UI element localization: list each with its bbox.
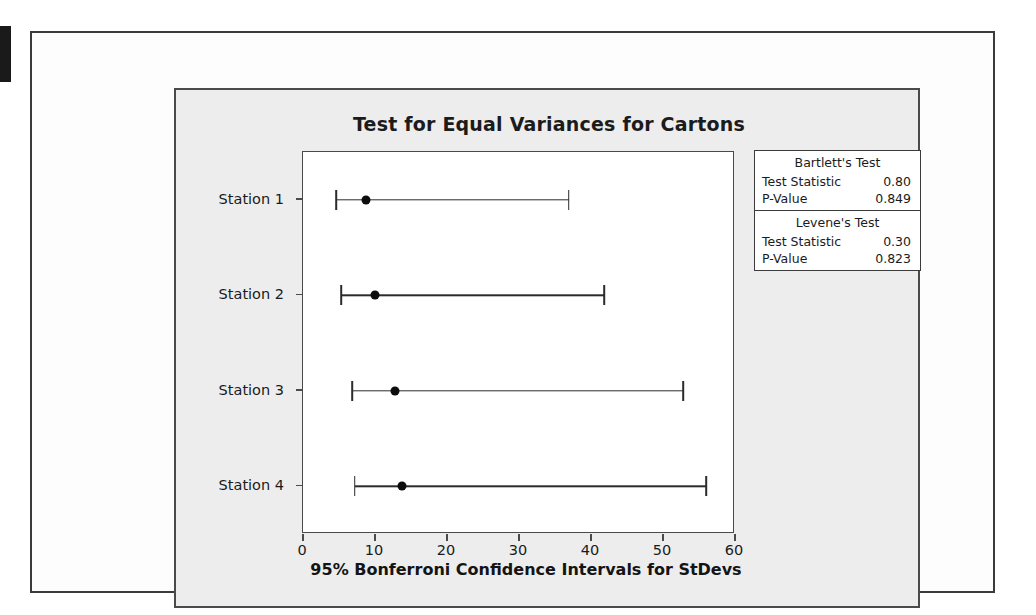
- x-tick-label-50: 50: [653, 542, 671, 558]
- x-tick-mark-50: [662, 534, 664, 541]
- x-tick-label-20: 20: [437, 542, 455, 558]
- y-tick-mark-1: [296, 198, 302, 200]
- interval-center-point: [361, 195, 370, 204]
- interval-lower-cap: [335, 190, 337, 210]
- interval-row: [303, 475, 733, 497]
- bartlett-test-statistic-value: 0.80: [883, 174, 911, 189]
- x-tick-mark-0: [302, 534, 304, 541]
- x-tick-mark-40: [590, 534, 592, 541]
- levene-pvalue-row: P-Value 0.823: [755, 250, 920, 270]
- statistics-panel: Bartlett's Test Test Statistic 0.80 P-Va…: [754, 150, 921, 271]
- x-tick-label-30: 30: [509, 542, 527, 558]
- interval-line: [336, 199, 569, 200]
- bartlett-pvalue-value: 0.849: [875, 191, 911, 206]
- bartlett-test-statistic-row: Test Statistic 0.80: [755, 173, 920, 190]
- y-tick-label-3: Station 3: [219, 382, 284, 398]
- interval-lower-cap: [340, 285, 342, 305]
- interval-lower-cap: [354, 476, 356, 496]
- interval-upper-cap: [682, 381, 684, 401]
- interval-center-point: [371, 291, 380, 300]
- interval-line: [341, 295, 604, 296]
- x-tick-mark-10: [374, 534, 376, 541]
- x-tick-label-0: 0: [297, 542, 306, 558]
- x-tick-mark-60: [734, 534, 736, 541]
- interval-upper-cap: [568, 190, 570, 210]
- graph-panel: Test for Equal Variances for Cartons Sta…: [174, 88, 920, 608]
- levene-test-heading: Levene's Test: [755, 211, 920, 233]
- x-tick-mark-20: [446, 534, 448, 541]
- plot-area: [302, 151, 734, 533]
- interval-center-point: [397, 482, 406, 491]
- x-tick-label-40: 40: [581, 542, 599, 558]
- x-tick-label-10: 10: [365, 542, 383, 558]
- x-tick-label-60: 60: [725, 542, 743, 558]
- bartlett-test-block: Bartlett's Test Test Statistic 0.80 P-Va…: [755, 151, 920, 210]
- y-tick-mark-2: [296, 294, 302, 296]
- y-tick-label-2: Station 2: [219, 286, 284, 302]
- y-tick-label-4: Station 4: [219, 477, 284, 493]
- levene-test-block: Levene's Test Test Statistic 0.30 P-Valu…: [755, 210, 920, 270]
- levene-test-statistic-row: Test Statistic 0.30: [755, 233, 920, 250]
- interval-row: [303, 189, 733, 211]
- x-tick-mark-30: [518, 534, 520, 541]
- bartlett-test-statistic-label: Test Statistic: [762, 174, 841, 189]
- interval-line: [352, 390, 683, 391]
- bartlett-pvalue-row: P-Value 0.849: [755, 190, 920, 210]
- y-tick-label-1: Station 1: [219, 191, 284, 207]
- chart-title: Test for Equal Variances for Cartons: [176, 113, 922, 135]
- levene-test-statistic-value: 0.30: [883, 234, 911, 249]
- y-tick-mark-4: [296, 485, 302, 487]
- interval-row: [303, 284, 733, 306]
- interval-upper-cap: [603, 285, 605, 305]
- levene-pvalue-label: P-Value: [762, 251, 807, 266]
- scan-edge-artifact: [0, 26, 11, 82]
- interval-center-point: [391, 386, 400, 395]
- interval-line: [355, 486, 706, 487]
- interval-upper-cap: [705, 476, 707, 496]
- y-tick-mark-3: [296, 389, 302, 391]
- interval-row: [303, 380, 733, 402]
- interval-lower-cap: [351, 381, 353, 401]
- y-axis-labels: Station 1Station 2Station 3Station 4: [176, 151, 296, 533]
- figure-outer-border: Test for Equal Variances for Cartons Sta…: [30, 31, 995, 593]
- levene-pvalue-value: 0.823: [875, 251, 911, 266]
- levene-test-statistic-label: Test Statistic: [762, 234, 841, 249]
- bartlett-test-heading: Bartlett's Test: [755, 151, 920, 173]
- x-axis-title: 95% Bonferroni Confidence Intervals for …: [266, 560, 786, 579]
- bartlett-pvalue-label: P-Value: [762, 191, 807, 206]
